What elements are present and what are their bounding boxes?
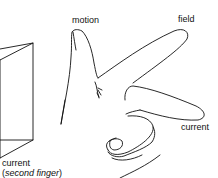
curled-fingers: [106, 116, 160, 178]
hand-illustration: [0, 0, 218, 178]
thumb: [61, 30, 102, 124]
label-second-finger: (second finger): [2, 168, 62, 178]
index-finger: [98, 30, 188, 83]
right-hand-rule-diagram: motion field current current (second fin…: [0, 0, 218, 178]
paren-close: ): [59, 168, 62, 178]
second-finger-text: second finger: [5, 168, 59, 178]
middle-finger: [125, 86, 204, 120]
label-current-left: current: [2, 158, 30, 168]
conductor-block: [0, 43, 33, 158]
label-motion: motion: [72, 15, 99, 25]
palm-outline: [61, 100, 65, 124]
label-field: field: [178, 14, 195, 24]
label-current-right: current: [181, 122, 209, 132]
